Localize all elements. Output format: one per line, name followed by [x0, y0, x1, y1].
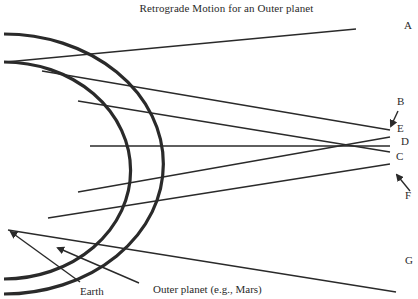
point-label-c: C: [396, 151, 403, 162]
pointer-arrows: [11, 111, 410, 283]
sight-lines: [6, 29, 396, 292]
retrograde-motion-diagram: [0, 0, 418, 299]
sight-line-e2: [78, 137, 390, 192]
point-label-d: D: [401, 136, 409, 147]
earth-label: Earth: [80, 286, 104, 297]
sight-line-c: [48, 164, 390, 218]
sight-line-e: [78, 101, 390, 152]
point-label-e: E: [397, 123, 404, 134]
point-label-b: B: [397, 96, 404, 107]
point-label-g: G: [405, 255, 413, 266]
outer-arrow-icon: [58, 248, 139, 283]
outer-planet-label: Outer planet (e.g., Mars): [153, 284, 262, 295]
sight-line-a: [6, 29, 356, 62]
orbits: [4, 34, 163, 294]
point-label-f: F: [405, 190, 411, 201]
sight-line-b: [42, 71, 390, 130]
point-label-a: A: [404, 20, 412, 31]
